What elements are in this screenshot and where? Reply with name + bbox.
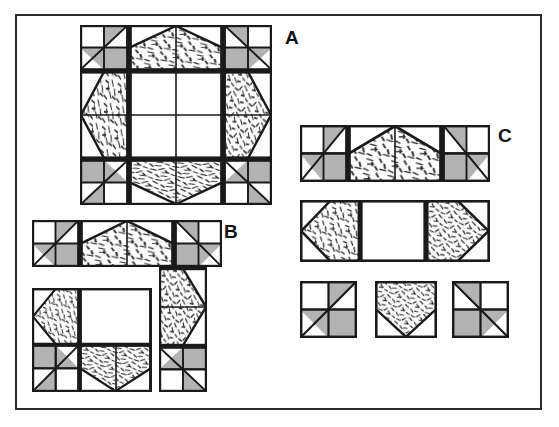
- block-c-row-middle: [300, 200, 490, 262]
- block-b-right-strip: [159, 267, 207, 392]
- patch-unit-corner-bl: [80, 160, 128, 205]
- block-c-single-unit-corner-right: [452, 281, 509, 338]
- patch-unit-point-right: [224, 70, 272, 160]
- block-a-label: A: [285, 28, 299, 47]
- patch-unit-point-up: [79, 220, 175, 267]
- patch-unit-corner-tl: [32, 220, 79, 267]
- patch-unit-point-left: [300, 200, 360, 262]
- block-b-label: B: [224, 222, 238, 241]
- patch-unit-point-right: [426, 200, 490, 262]
- block-c-label: C: [498, 126, 512, 145]
- patch-unit-point-left: [80, 70, 128, 160]
- patch-unit-corner-tl: [80, 25, 128, 70]
- patch-unit-corner-tl: [300, 281, 357, 338]
- patch-unit-corner-br: [224, 160, 272, 205]
- block-b-lower-left-section: [32, 288, 152, 392]
- patch-unit-point-left: [32, 288, 79, 345]
- patch-unit-center-square: [79, 288, 152, 345]
- patch-unit-corner-tr: [175, 220, 222, 267]
- block-c-row-top: [300, 125, 490, 182]
- patch-unit-point-down: [375, 281, 437, 338]
- block-c-single-unit-point: [375, 281, 437, 338]
- patch-unit-corner-tr: [452, 281, 509, 338]
- block-b-top-strip: [32, 220, 222, 267]
- patch-unit-corner-br: [159, 347, 207, 392]
- block-c-single-unit-corner-left: [300, 281, 357, 338]
- patch-unit-point-up: [128, 25, 224, 70]
- patch-unit-corner-tr: [443, 125, 490, 182]
- patch-unit-point-down: [128, 160, 224, 205]
- patch-unit-corner-bl: [32, 345, 79, 392]
- figure-page: A: [0, 0, 559, 427]
- patch-unit-corner-tr: [224, 25, 272, 70]
- patch-unit-corner-tl: [300, 125, 347, 182]
- patch-unit-center-square: [360, 200, 426, 262]
- patch-unit-point-up: [347, 125, 443, 182]
- patch-unit-point-right: [159, 267, 207, 347]
- block-a-finished-star: [80, 25, 272, 205]
- patch-unit-center-square: [128, 70, 224, 160]
- patch-unit-point-down: [79, 345, 152, 392]
